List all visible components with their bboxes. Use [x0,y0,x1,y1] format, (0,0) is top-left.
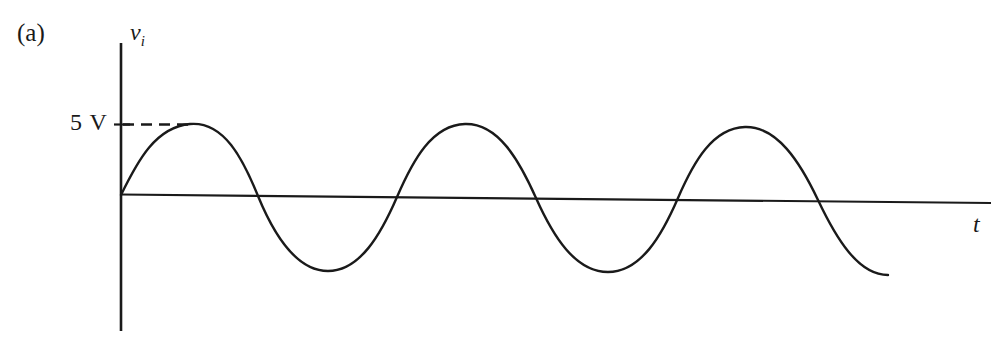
x-axis-line [121,195,991,204]
input-sine-waveform [121,124,888,275]
panel-label: (a) [17,20,45,45]
y-axis-label: vi [130,20,145,49]
y-axis-label-subscript: i [141,33,145,49]
amplitude-label: 5 V [70,110,108,134]
waveform-plot [0,0,1002,364]
y-axis-label-symbol: v [130,19,141,45]
figure-panel-a: (a) vi t 5 V [0,0,1002,364]
x-axis-label: t [973,212,980,236]
